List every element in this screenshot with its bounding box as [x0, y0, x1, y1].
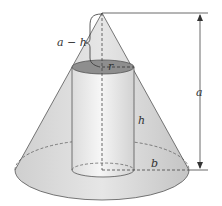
label-r: r	[108, 60, 114, 73]
cone-cylinder-figure: a − h r h b a	[0, 0, 222, 206]
cylinder-body	[72, 67, 134, 177]
arrow-down-icon	[197, 162, 203, 169]
diagram: a − h r h b a	[0, 0, 222, 206]
label-h: h	[138, 114, 145, 127]
label-a-minus-h: a − h	[57, 36, 87, 49]
label-a: a	[196, 86, 203, 99]
arrow-up-icon	[197, 14, 203, 21]
label-b: b	[151, 157, 158, 170]
